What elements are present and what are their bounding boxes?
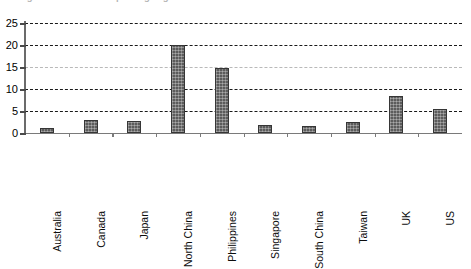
y-tick-20: [20, 45, 26, 47]
y-axis-tick-labels: 0510152025: [0, 0, 18, 214]
gridline-15: [25, 67, 462, 68]
gridline-20: [25, 45, 462, 46]
x-axis-label-singapore: Singapore: [270, 211, 281, 259]
x-axis-label-philippines: Philippines: [227, 211, 238, 262]
y-tick-15: [20, 67, 26, 69]
bar-philippines[interactable]: [215, 68, 229, 133]
y-tick-10: [20, 89, 26, 91]
bar-north-china[interactable]: [171, 45, 185, 133]
y-tick-label-25: 25: [0, 18, 18, 29]
x-axis-label-us: US: [445, 211, 456, 226]
gridline-25: [25, 23, 462, 24]
x-axis-label-japan: Japan: [139, 211, 150, 240]
y-tick-label-10: 10: [0, 84, 18, 95]
y-tick-label-15: 15: [0, 62, 18, 73]
y-tick-label-0: 0: [0, 128, 18, 139]
x-axis-label-taiwan: Taiwan: [358, 211, 369, 244]
clipped-chart-title: Figure: Number of reporting organisation…: [0, 0, 471, 5]
x-axis-label-australia: Australia: [52, 211, 63, 252]
x-axis-label-uk: UK: [401, 211, 412, 226]
plot-area: [25, 23, 462, 133]
y-tick-0: [20, 133, 26, 135]
bar-uk[interactable]: [389, 96, 403, 133]
y-tick-label-5: 5: [0, 106, 18, 117]
x-axis-label-south-china: South China: [314, 211, 325, 269]
x-axis-category-labels: AustraliaCanadaJapanNorth ChinaPhilippin…: [25, 137, 462, 214]
x-axis-label-canada: Canada: [96, 211, 107, 248]
y-tick-25: [20, 23, 26, 25]
gridline-10: [25, 89, 462, 90]
bar-canada[interactable]: [84, 120, 98, 133]
x-axis-label-north-china: North China: [183, 211, 194, 267]
y-tick-5: [20, 111, 26, 113]
bar-taiwan[interactable]: [346, 122, 360, 133]
y-tick-label-20: 20: [0, 40, 18, 51]
bar-us[interactable]: [433, 109, 447, 133]
bar-japan[interactable]: [127, 121, 141, 133]
